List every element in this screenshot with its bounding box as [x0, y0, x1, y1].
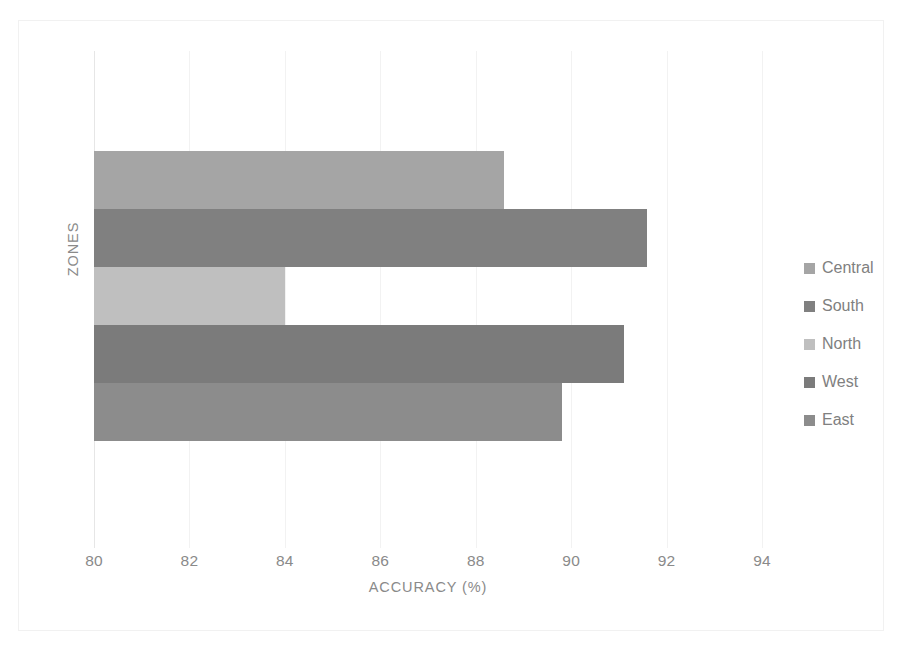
legend-label: West [822, 373, 858, 391]
x-axis-tick-labels: 8082848688909294 [94, 552, 762, 578]
x-axis-title: ACCURACY (%) [94, 579, 762, 595]
legend-item-east[interactable]: East [804, 401, 899, 439]
bar-row-west [94, 325, 762, 383]
bar-row-south [94, 209, 762, 267]
legend-item-north[interactable]: North [804, 325, 899, 363]
legend-swatch-icon [804, 377, 815, 388]
legend-label: North [822, 335, 861, 353]
x-tick-label-80: 80 [85, 552, 103, 570]
x-tick-label-82: 82 [181, 552, 199, 570]
bar-south[interactable] [94, 209, 647, 267]
chart-legend: CentralSouthNorthWestEast [804, 249, 899, 439]
x-tick-label-86: 86 [371, 552, 389, 570]
bar-east[interactable] [94, 383, 562, 441]
x-tick-label-88: 88 [467, 552, 485, 570]
legend-swatch-icon [804, 301, 815, 312]
x-tick-label-90: 90 [562, 552, 580, 570]
chart-frame: 8082848688909294 ACCURACY (%) ZONES Cent… [18, 20, 884, 631]
legend-swatch-icon [804, 415, 815, 426]
legend-label: Central [822, 259, 874, 277]
bar-north[interactable] [94, 267, 285, 325]
bar-row-central [94, 151, 762, 209]
bar-row-east [94, 383, 762, 441]
legend-label: South [822, 297, 864, 315]
legend-item-south[interactable]: South [804, 287, 899, 325]
x-tick-label-92: 92 [658, 552, 676, 570]
legend-swatch-icon [804, 263, 815, 274]
bar-west[interactable] [94, 325, 624, 383]
bar-row-north [94, 267, 762, 325]
bar-central[interactable] [94, 151, 504, 209]
y-axis-title: ZONES [65, 174, 81, 324]
legend-swatch-icon [804, 339, 815, 350]
x-tick-label-84: 84 [276, 552, 294, 570]
legend-item-central[interactable]: Central [804, 249, 899, 287]
bar-series [94, 151, 762, 441]
legend-item-west[interactable]: West [804, 363, 899, 401]
legend-label: East [822, 411, 854, 429]
x-tick-label-94: 94 [753, 552, 771, 570]
gridline-x-94 [762, 51, 763, 548]
plot-area [94, 51, 762, 548]
